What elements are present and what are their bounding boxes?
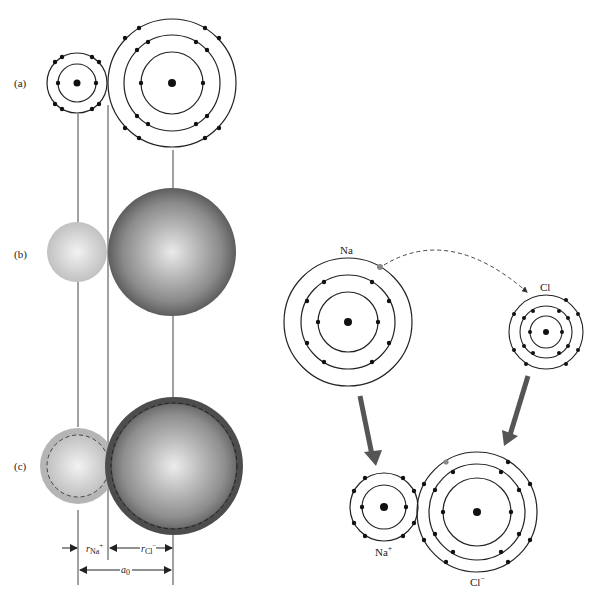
valence-electron-icon (377, 264, 383, 270)
ionization-arrows (360, 376, 528, 466)
cl-atom-label: Cl (540, 281, 550, 293)
ionic-bonding-diagram: (a) (b) (c) (0, 0, 597, 600)
nucleus-icon (543, 329, 549, 335)
panel-label-a: (a) (14, 77, 27, 90)
cl-ion-sphere-c (105, 397, 243, 535)
na-atom-label: Na (340, 244, 353, 256)
na-atom-bohr-model (284, 258, 412, 386)
cl-atom-bohr-model (509, 295, 583, 369)
r-na-label: rNa+ (86, 542, 103, 556)
nucleus-icon (344, 318, 352, 326)
r-cl-label: rCl− (141, 542, 156, 556)
cl-ion-sphere-b (108, 188, 236, 316)
gained-electron-icon (443, 459, 448, 464)
na-ion-sphere-b (47, 222, 107, 282)
cl-ion-bohr-model-a (108, 19, 236, 147)
nucleus-icon (168, 79, 176, 87)
nucleus-icon (473, 508, 481, 516)
cl-ion-bohr-model (417, 452, 537, 572)
nucleus-icon (380, 503, 388, 511)
na-ion-sphere-c (40, 428, 116, 504)
panel-label-b: (b) (14, 248, 27, 261)
nucleus-icon (74, 80, 81, 87)
na-ion-label: Na+ (375, 544, 393, 558)
a0-label: a0 (121, 564, 130, 577)
na-ion-bohr-model (350, 473, 418, 541)
cl-ion-label: Cl− (470, 574, 485, 588)
electron-transfer-arrow (384, 250, 527, 292)
panel-label-c: (c) (14, 460, 27, 473)
na-ion-bohr-model-a (47, 53, 107, 113)
